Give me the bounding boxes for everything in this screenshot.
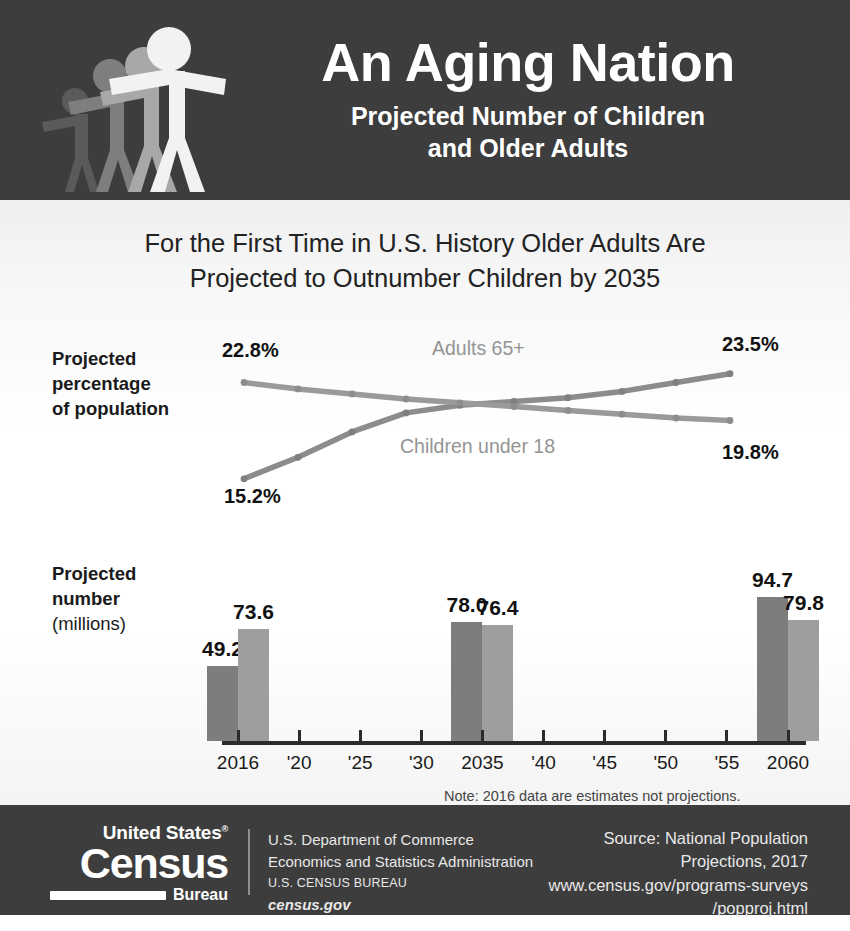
x-axis-label: '40 [531,752,556,774]
source-line1: Source: National Population [408,827,808,850]
bar-axis-label-line1: Projected [52,562,222,587]
header-subtitle-line2: and Older Adults [228,132,828,164]
x-axis-label: 2016 [217,752,259,774]
source-info: Source: National Population Projections,… [408,827,808,921]
header-subtitle: Projected Number of Children and Older A… [228,100,828,164]
data-point [457,399,464,406]
x-axis-tick [664,730,667,741]
x-axis-tick [725,730,728,741]
data-point [727,370,734,377]
data-point [565,407,572,414]
source-line2: Projections, 2017 [408,850,808,873]
line-chart-section: Projected percentage of population Adult… [0,325,850,530]
x-axis-label: '50 [653,752,678,774]
line-plot: Adults 65+ Children under 18 22.8% 15.2%… [222,325,842,530]
headline-line1: For the First Time in U.S. History Older… [0,226,850,261]
bar-2016-adults [207,666,238,741]
value-adults-2060: 23.5% [722,333,779,356]
line-axis-label-line2: percentage [52,372,222,397]
data-point [295,454,302,461]
bar-2060-children [788,620,819,741]
series-label-children-under-18: Children under 18 [400,435,555,458]
census-bureau-logo: United States® Census Bureau [42,823,228,903]
value-children-2016: 22.8% [222,339,279,362]
bar-value-label: 76.4 [478,596,519,620]
x-axis-tick [359,730,362,741]
bar-value-label: 73.6 [233,600,274,624]
people-figures-icon [38,22,230,194]
header-title-group: An Aging Nation Projected Number of Chil… [228,34,828,164]
footer-divider [248,829,250,895]
data-point [241,475,248,482]
x-axis-label: '25 [348,752,373,774]
data-point [403,410,410,417]
header-banner: An Aging Nation Projected Number of Chil… [0,0,850,200]
data-point [619,411,626,418]
logo-bureau-text: Bureau [173,887,228,903]
page-title: An Aging Nation [228,34,828,90]
x-axis-tick [787,730,790,741]
bar-chart-axis-label: Projected number (millions) [52,562,222,636]
x-axis-label: '20 [287,752,312,774]
bar-chart-section: Projected number (millions) 49.273.678.0… [0,548,850,798]
data-point [241,379,248,386]
bar-axis-label-line3: (millions) [52,612,222,637]
bar-value-label: 49.2 [202,637,243,661]
x-axis-label: '30 [409,752,434,774]
x-axis-tick [298,730,301,741]
x-axis-tick [237,730,240,741]
x-axis-tick [481,730,484,741]
data-point [673,379,680,386]
data-point [619,388,626,395]
bar-2035-children [482,625,513,741]
x-axis-label: 2035 [461,752,503,774]
x-axis-label: '45 [592,752,617,774]
series-label-adults-65plus: Adults 65+ [432,337,525,360]
data-point [403,396,410,403]
x-axis-label: 2060 [767,752,809,774]
x-axis-tick [420,730,423,741]
infographic-root: An Aging Nation Projected Number of Chil… [0,0,850,931]
bar-2060-adults [757,597,788,741]
logo-census-wordmark: Census [42,843,228,884]
headline-line2: Projected to Outnumber Children by 2035 [0,261,850,296]
data-point [349,391,356,398]
line-axis-label-line3: of population [52,397,222,422]
source-line4[interactable]: /popproj.html [408,897,808,920]
footer-banner: United States® Census Bureau U.S. Depart… [0,805,850,915]
logo-bureau-row: Bureau [42,887,228,903]
data-point [673,415,680,422]
headline: For the First Time in U.S. History Older… [0,226,850,295]
value-children-2060: 19.8% [722,441,779,464]
bar-axis-label-line2: number [52,587,222,612]
bar-value-label: 94.7 [752,568,793,592]
bar-2035-adults [451,622,482,741]
x-axis-tick [542,730,545,741]
x-axis-label: '55 [714,752,739,774]
data-point [511,403,518,410]
data-point [295,386,302,393]
source-line3[interactable]: www.census.gov/programs-surveys [408,874,808,897]
chart-note: Note: 2016 data are estimates not projec… [444,788,741,804]
body-area: For the First Time in U.S. History Older… [0,200,850,805]
bar-chart-baseline [222,741,806,745]
data-point [349,429,356,436]
data-point [565,394,572,401]
bar-value-label: 79.8 [783,591,824,615]
value-adults-2016: 15.2% [224,485,281,508]
line-axis-label-line1: Projected [52,347,222,372]
x-axis-tick [603,730,606,741]
header-subtitle-line1: Projected Number of Children [228,100,828,132]
data-point [727,417,734,424]
registered-trademark-icon: ® [222,824,228,834]
bar-plot: 49.273.678.076.494.779.8 2016'20'25'3020… [222,548,842,798]
bar-2016-children [238,629,269,741]
logo-bar-decoration [50,891,166,900]
line-chart-axis-label: Projected percentage of population [52,347,222,421]
